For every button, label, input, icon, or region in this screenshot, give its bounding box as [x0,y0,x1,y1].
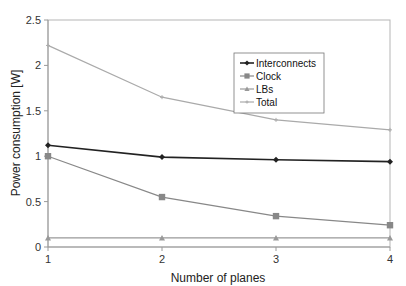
series-lines [45,43,393,240]
cross-marker-icon [388,128,392,132]
x-tick-label: 4 [387,253,393,265]
cross-marker-icon [274,118,278,122]
plot-border [48,20,390,247]
x-tick-label: 1 [45,253,51,265]
legend-label: Total [256,97,277,108]
legend-label: Clock [256,71,282,82]
series-line [48,45,390,129]
y-tick-label: 1.5 [26,105,41,117]
y-axis-title: Power consumption [W] [9,70,23,197]
x-axis-ticks: 1234 [45,247,393,265]
y-tick-label: 2 [35,59,41,71]
diamond-marker-icon [387,159,393,165]
legend: InterconnectsClockLBsTotal [234,53,324,113]
x-axis-title: Number of planes [171,271,266,285]
square-marker-icon [159,194,165,200]
y-tick-label: 0.5 [26,196,41,208]
series-line [48,156,390,225]
diamond-marker-icon [159,154,165,160]
series-line [48,145,390,161]
legend-label: LBs [256,84,273,95]
x-tick-label: 2 [159,253,165,265]
square-marker-icon [244,73,249,78]
series-interconnects [45,142,393,164]
x-tick-label: 3 [273,253,279,265]
y-tick-label: 1 [35,150,41,162]
cross-marker-icon [160,95,164,99]
y-tick-label: 0 [35,241,41,253]
plot-area [48,20,390,247]
diamond-marker-icon [45,142,51,148]
series-lbs [45,235,393,241]
line-chart: 00.511.522.5 1234 Number of planes Power… [0,0,406,286]
series-total [46,43,392,131]
series-clock [45,153,393,228]
y-axis-ticks: 00.511.522.5 [26,14,48,253]
y-tick-label: 2.5 [26,14,41,26]
legend-label: Interconnects [256,58,316,69]
square-marker-icon [273,213,279,219]
diamond-marker-icon [273,157,279,163]
cross-marker-icon [46,43,50,47]
square-marker-icon [387,222,393,228]
square-marker-icon [45,153,51,159]
